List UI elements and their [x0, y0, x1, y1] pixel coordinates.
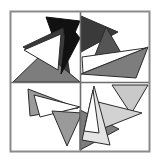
pinwheel-triangle-figure [0, 0, 159, 163]
artwork-canvas [0, 0, 159, 163]
